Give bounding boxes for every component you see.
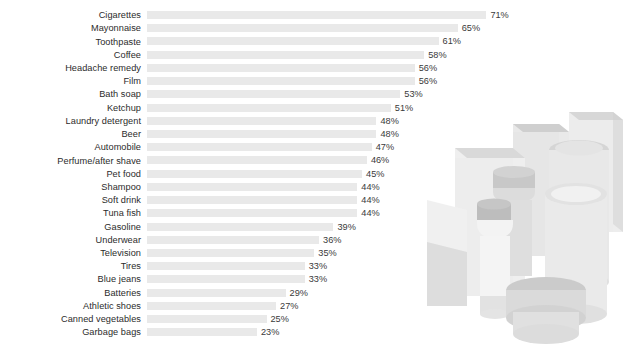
bar-value-label: 44% [361, 207, 379, 219]
bar-fill [147, 196, 357, 204]
bar-row: Soft drink44% [0, 194, 520, 207]
bar-row: Coffee58% [0, 49, 520, 62]
bar-value-label: 65% [462, 22, 480, 34]
bar-fill [147, 77, 415, 85]
bar-row: Laundry detergent48% [0, 115, 520, 128]
bar-track [147, 289, 286, 297]
category-label: Blue jeans [0, 274, 141, 285]
bar-fill [147, 37, 439, 45]
bar-value-label: 48% [380, 115, 398, 127]
bar-row: Television35% [0, 247, 520, 260]
bar-track [147, 117, 376, 125]
bar-row: Tires33% [0, 260, 520, 273]
bar-row: Cigarettes71% [0, 9, 520, 22]
bar-track [147, 223, 333, 231]
bar-row: Beer48% [0, 128, 520, 141]
bar-row: Gasoline39% [0, 221, 520, 234]
category-label: Automobile [0, 142, 141, 153]
category-label: Shampoo [0, 182, 141, 193]
bar-fill [147, 249, 314, 257]
bar-row: Garbage bags23% [0, 326, 520, 339]
bar-track [147, 209, 357, 217]
bar-track [147, 130, 376, 138]
bar-row: Blue jeans33% [0, 273, 520, 286]
category-label: Batteries [0, 288, 141, 299]
bar-track [147, 51, 424, 59]
container-tall-can-right [549, 140, 609, 291]
category-label: Underwear [0, 235, 141, 246]
bar-fill [147, 170, 362, 178]
bar-track [147, 170, 362, 178]
bar-row: Canned vegetables25% [0, 313, 520, 326]
bar-fill [147, 24, 458, 32]
bar-track [147, 262, 305, 270]
category-label: Laundry detergent [0, 116, 141, 127]
bar-value-label: 29% [290, 287, 308, 299]
bar-value-label: 58% [428, 49, 446, 61]
bar-row: Film56% [0, 75, 520, 88]
bar-fill [147, 51, 424, 59]
bar-track [147, 275, 305, 283]
bar-value-label: 46% [371, 154, 389, 166]
category-label: Cigarettes [0, 10, 141, 21]
bar-value-label: 27% [280, 300, 298, 312]
bar-fill [147, 143, 372, 151]
bar-value-label: 39% [337, 221, 355, 233]
chart-root: Cigarettes71%Mayonnaise65%Toothpaste61%C… [0, 0, 627, 356]
bar-value-label: 53% [404, 88, 422, 100]
bar-fill [147, 156, 367, 164]
bar-row: Pet food45% [0, 168, 520, 181]
category-label: Mayonnaise [0, 23, 141, 34]
container-back-center [513, 124, 569, 256]
bar-row: Tuna fish44% [0, 207, 520, 220]
category-label: Tuna fish [0, 208, 141, 219]
category-label: Toothpaste [0, 37, 141, 48]
bar-row: Batteries29% [0, 287, 520, 300]
bar-value-label: 61% [443, 35, 461, 47]
bar-fill [147, 90, 400, 98]
category-label: Garbage bags [0, 327, 141, 338]
bar-track [147, 315, 267, 323]
bar-track [147, 143, 372, 151]
bar-track [147, 156, 367, 164]
bar-value-label: 25% [271, 313, 289, 325]
bar-track [147, 90, 400, 98]
bar-row: Bath soap53% [0, 88, 520, 101]
bar-chart: Cigarettes71%Mayonnaise65%Toothpaste61%C… [0, 9, 520, 349]
category-label: Headache remedy [0, 63, 141, 74]
bar-fill [147, 315, 267, 323]
bar-track [147, 104, 391, 112]
bar-value-label: 23% [261, 326, 279, 338]
bar-fill [147, 262, 305, 270]
bar-value-label: 45% [366, 168, 384, 180]
bar-value-label: 36% [323, 234, 341, 246]
bar-track [147, 37, 439, 45]
bar-row: Mayonnaise65% [0, 22, 520, 35]
bar-track [147, 196, 357, 204]
bar-row: Automobile47% [0, 141, 520, 154]
bar-fill [147, 104, 391, 112]
category-label: Beer [0, 129, 141, 140]
container-cylinder-right-front [545, 183, 607, 324]
category-label: Soft drink [0, 195, 141, 206]
category-label: Canned vegetables [0, 314, 141, 325]
bar-value-label: 71% [490, 9, 508, 21]
bar-row: Athletic shoes27% [0, 300, 520, 313]
bar-track [147, 236, 319, 244]
bar-row: Toothpaste61% [0, 35, 520, 48]
bar-track [147, 11, 486, 19]
container-back-right [569, 112, 623, 232]
bar-track [147, 183, 357, 191]
bar-fill [147, 64, 415, 72]
category-label: Television [0, 248, 141, 259]
bar-row: Shampoo44% [0, 181, 520, 194]
category-label: Perfume/after shave [0, 156, 141, 167]
bar-fill [147, 223, 333, 231]
bar-value-label: 33% [309, 260, 327, 272]
bar-row: Perfume/after shave46% [0, 154, 520, 167]
category-label: Film [0, 76, 141, 87]
bar-value-label: 44% [361, 194, 379, 206]
category-label: Tires [0, 261, 141, 272]
bar-fill [147, 289, 286, 297]
bar-fill [147, 130, 376, 138]
